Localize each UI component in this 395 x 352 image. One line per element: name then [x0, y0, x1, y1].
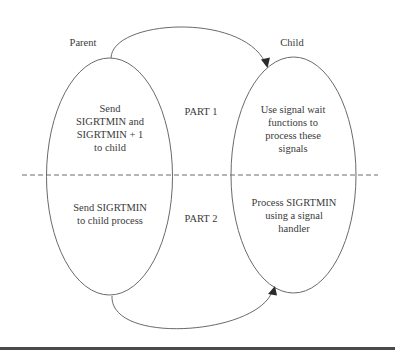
part-2-parent-action-line: Send SIGRTMIN — [56, 201, 164, 214]
part-1-parent-action-line: SIGRTMIN and — [60, 115, 160, 128]
parent-process-ellipse — [47, 58, 173, 295]
bottom-arrow-curve — [112, 292, 272, 329]
figure-bottom-rule — [0, 347, 395, 350]
top-arrow-curve — [111, 27, 265, 62]
part-1-child-action: Use signal wait functions to process the… — [243, 103, 343, 155]
part-1-child-action-line: functions to — [243, 116, 343, 129]
part-1-parent-action-line: Send — [60, 102, 160, 115]
part-2-child-action: Process SIGRTMIN using a signal handler — [238, 196, 350, 235]
part-2-parent-action: Send SIGRTMIN to child process — [56, 201, 164, 227]
part-2-child-action-line: handler — [238, 222, 350, 235]
part-1-parent-action: Send SIGRTMIN and SIGRTMIN + 1 to child — [60, 102, 160, 154]
part-1-label: PART 1 — [176, 105, 226, 118]
part-1-child-action-line: Use signal wait — [243, 103, 343, 116]
part-2-label: PART 2 — [176, 212, 226, 225]
part-1-parent-action-line: SIGRTMIN + 1 — [60, 128, 160, 141]
bottom-arrowhead-icon — [268, 286, 277, 296]
parent-label: Parent — [63, 36, 103, 49]
process-signal-diagram — [0, 0, 395, 352]
child-label: Child — [272, 36, 312, 49]
part-1-child-action-line: process these — [243, 129, 343, 142]
part-1-child-action-line: signals — [243, 142, 343, 155]
part-2-child-action-line: using a signal — [238, 209, 350, 222]
part-2-child-action-line: Process SIGRTMIN — [238, 196, 350, 209]
part-2-parent-action-line: to child process — [56, 214, 164, 227]
part-1-parent-action-line: to child — [60, 141, 160, 154]
